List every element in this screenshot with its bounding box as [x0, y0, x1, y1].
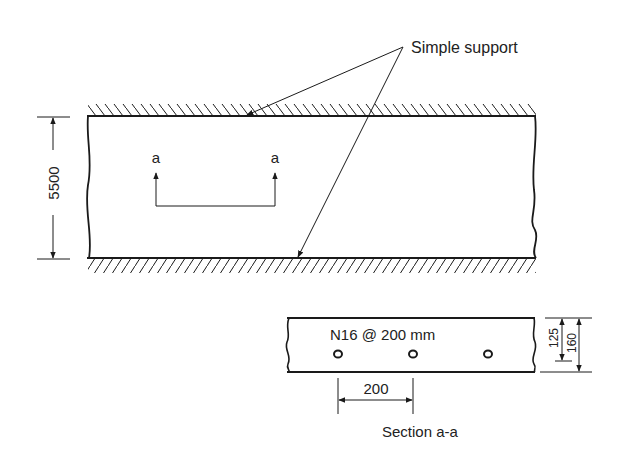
rebar-1: [334, 350, 342, 357]
bottom-support-hatching: [88, 259, 536, 273]
bar-spacing-label: 200: [363, 380, 388, 397]
section-marker-right-label: a: [271, 149, 280, 166]
reinforcement-bars: [334, 350, 492, 357]
section-marker-left-label: a: [152, 149, 161, 166]
section-cut-marker: [156, 173, 275, 206]
top-support-hatching: [88, 104, 536, 116]
reinforcement-label: N16 @ 200 mm: [330, 326, 435, 343]
section-title: Section a-a: [382, 423, 459, 440]
effective-depth-label: 125: [547, 328, 561, 348]
simple-support-label: Simple support: [411, 39, 518, 56]
slab-thickness-label: 160: [565, 333, 579, 353]
span-dimension-label: 5500: [45, 166, 62, 199]
rebar-2: [409, 350, 417, 357]
slab-diagram: 5500 a a Simple support N16 @ 200 mm 200: [0, 0, 618, 463]
slab-plan-outline: [87, 116, 537, 258]
rebar-3: [484, 350, 492, 357]
